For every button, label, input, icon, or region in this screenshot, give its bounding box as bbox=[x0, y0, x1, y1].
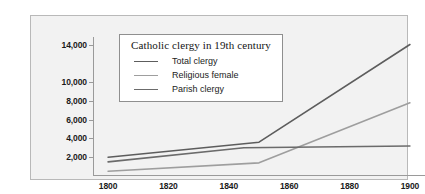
chart-legend: Catholic clergy in 19th century Total cl… bbox=[119, 34, 283, 102]
y-tick-label: 4,000 bbox=[66, 133, 87, 143]
y-tick-label: 8,000 bbox=[66, 96, 87, 106]
x-tick-label: 1880 bbox=[340, 181, 359, 191]
y-tick-label: 14,000 bbox=[62, 40, 87, 50]
legend-item-religious-female: Religious female bbox=[126, 68, 276, 82]
chart-plate: 2,0004,0006,0008,00010,00014,000 1800182… bbox=[30, 15, 408, 180]
x-tick-label: 1840 bbox=[220, 181, 239, 191]
y-tick-label: 6,000 bbox=[66, 115, 87, 125]
x-tick-label: 1800 bbox=[99, 181, 118, 191]
legend-item-total-clergy: Total clergy bbox=[126, 54, 276, 68]
series-line-parish-clergy bbox=[108, 146, 410, 162]
legend-swatch-icon bbox=[134, 75, 158, 76]
legend-label: Parish clergy bbox=[172, 84, 224, 94]
x-tick-label: 1900 bbox=[401, 181, 420, 191]
legend-swatch-icon bbox=[134, 89, 158, 90]
legend-title: Catholic clergy in 19th century bbox=[126, 39, 276, 51]
y-tick-label: 2,000 bbox=[66, 152, 87, 162]
legend-item-parish-clergy: Parish clergy bbox=[126, 82, 276, 96]
legend-label: Religious female bbox=[172, 70, 239, 80]
legend-entries: Total clergyReligious femaleParish clerg… bbox=[126, 54, 276, 96]
plot-area: 2,0004,0006,0008,00010,00014,000 1800182… bbox=[93, 37, 425, 176]
y-tick-label: 10,000 bbox=[62, 77, 87, 87]
x-tick-label: 1820 bbox=[159, 181, 178, 191]
legend-label: Total clergy bbox=[172, 56, 218, 66]
legend-swatch-icon bbox=[134, 61, 158, 62]
series-line-religious-female bbox=[108, 103, 410, 172]
x-tick-label: 1860 bbox=[280, 181, 299, 191]
